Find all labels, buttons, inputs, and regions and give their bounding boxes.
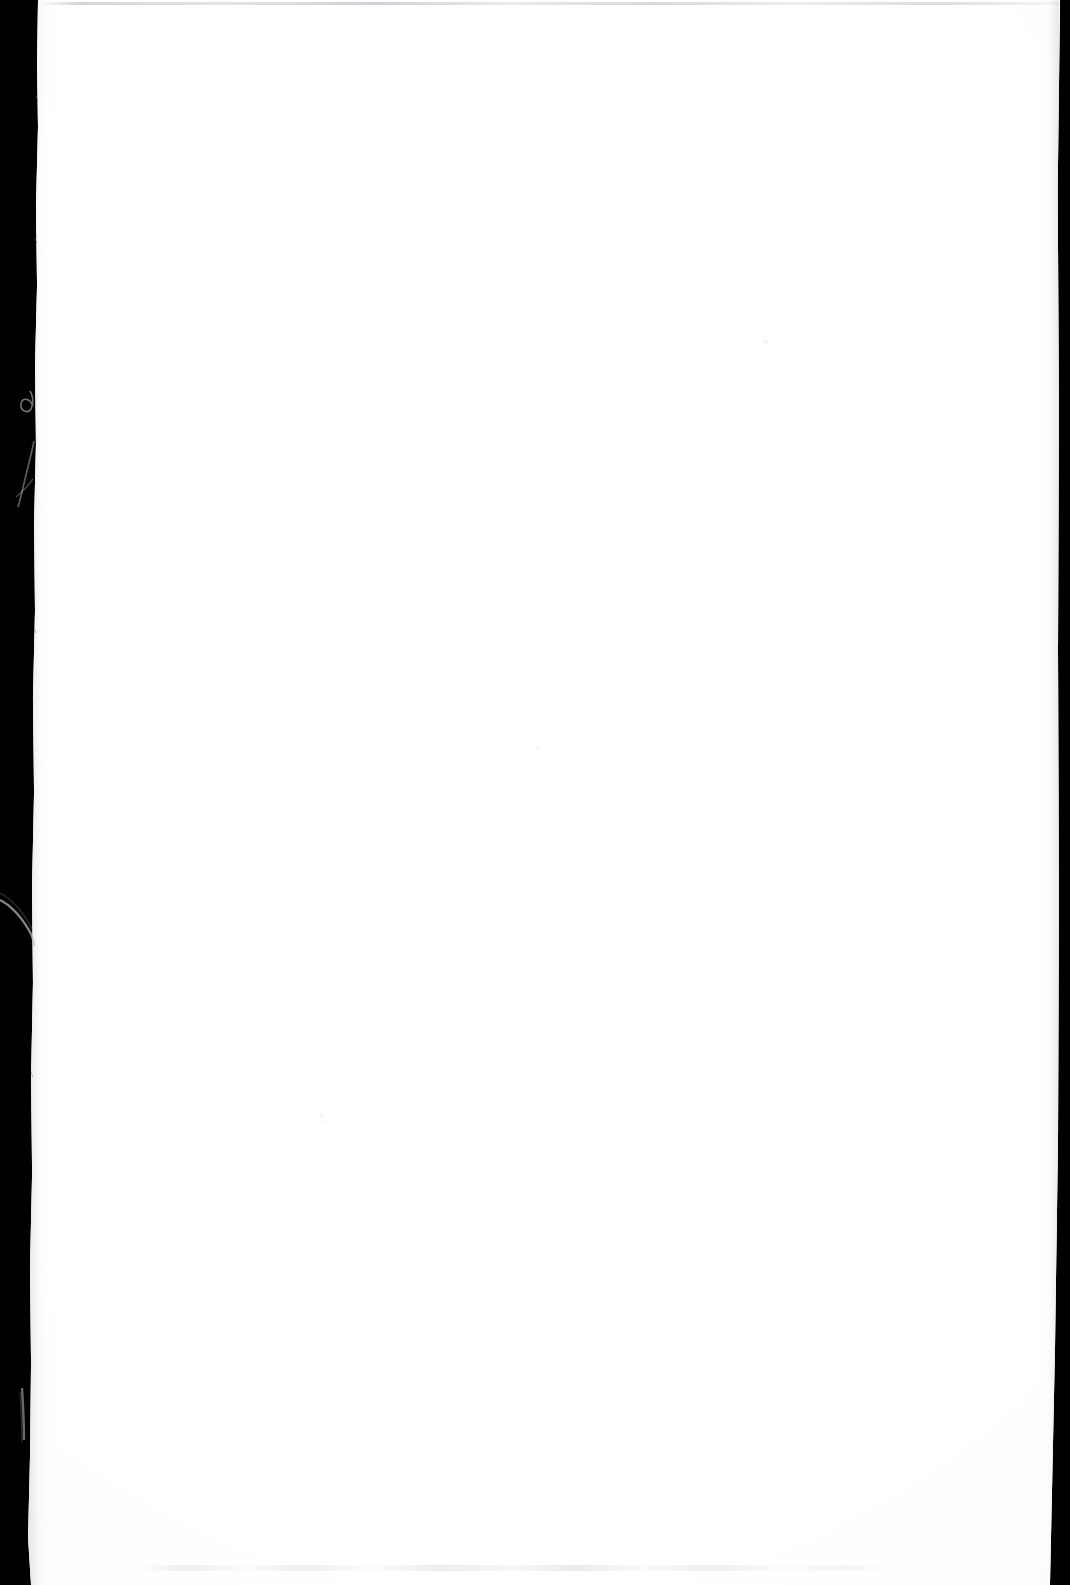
page-body: [60, 40, 1030, 1545]
scanned-page: Scanned blank page: [0, 0, 1070, 1585]
paper-sheet: [0, 0, 1070, 1585]
top-scan-line: [39, 2, 1060, 5]
